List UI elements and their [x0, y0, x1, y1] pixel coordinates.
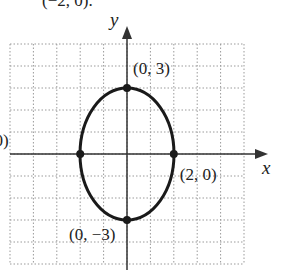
y-axis-label: y	[108, 9, 119, 30]
y-axis-arrow-icon	[122, 26, 132, 39]
point-marker	[76, 150, 84, 158]
ellipse-graph: (−2, 0). x y (0, 3)(−2, 0)(2, 0)(0, −3)	[0, 0, 281, 272]
x-axis-label: x	[261, 157, 271, 178]
point-label: (0, −3)	[69, 225, 115, 244]
point-label: (0, 3)	[133, 59, 170, 78]
point-label: (−2, 0)	[0, 131, 9, 150]
clipped-top-text: (−2, 0).	[42, 0, 93, 10]
point-marker	[170, 150, 178, 158]
point-label: (2, 0)	[180, 165, 217, 184]
axes: x y	[10, 9, 271, 270]
point-marker	[123, 216, 131, 224]
point-marker	[123, 84, 131, 92]
